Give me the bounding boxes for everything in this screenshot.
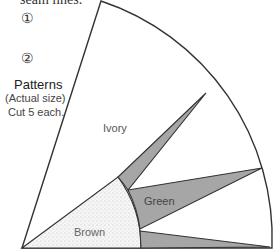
caption-subtitle: (Actual size) [5, 92, 66, 104]
green-label: Green [144, 195, 175, 207]
ivory-label: Ivory [103, 122, 127, 134]
marker-2: ② [21, 50, 34, 66]
note-fragment: seam lines. [20, 0, 82, 8]
caption-instruction: Cut 5 each. [8, 106, 64, 118]
marker-1: ① [21, 10, 34, 26]
pattern-diagram: Ivory Green Brown [0, 0, 278, 251]
caption-title: Patterns [14, 77, 62, 92]
brown-label: Brown [74, 226, 105, 238]
